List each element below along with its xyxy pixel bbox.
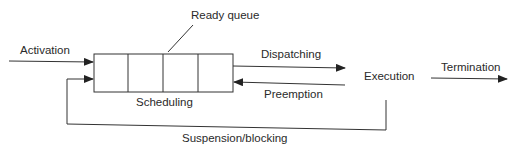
preemption-arrow xyxy=(234,82,345,85)
ready-queue-label: Ready queue xyxy=(191,10,259,22)
suspension-label: Suspension/blocking xyxy=(182,133,288,145)
activation-arrow xyxy=(9,61,93,62)
termination-arrow xyxy=(431,78,507,79)
preemption-label: Preemption xyxy=(264,89,323,101)
ready-queue-box xyxy=(94,54,233,92)
dispatching-arrow xyxy=(233,66,345,68)
termination-label: Termination xyxy=(441,62,500,74)
activation-label: Activation xyxy=(20,45,70,57)
dispatching-label: Dispatching xyxy=(261,49,321,61)
execution-label: Execution xyxy=(364,71,415,83)
ready-queue-leader xyxy=(168,25,193,52)
scheduling-label: Scheduling xyxy=(136,97,193,109)
